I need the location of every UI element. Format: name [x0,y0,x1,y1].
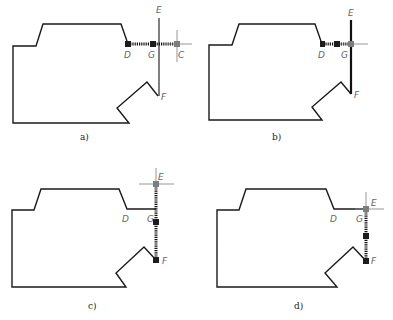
label-g: G [147,214,154,224]
label-e: E [156,5,162,15]
grip-d[interactable] [125,41,131,47]
figure-canvas: E D G C F a) E D G F b) [0,0,393,320]
grip-g[interactable] [348,41,354,47]
grip-g[interactable] [363,206,369,212]
label-e: E [158,172,164,182]
label-d: D [318,50,325,60]
label-c: C [178,50,185,60]
panel-b: E D G F b) [209,8,368,142]
label-d: D [330,214,337,224]
label-f: F [371,256,377,266]
grip-mid[interactable] [363,233,369,239]
label-f: F [354,90,360,100]
part-outline [13,24,158,123]
grip-d[interactable] [320,41,325,47]
label-d: D [124,50,131,60]
part-outline [12,189,156,287]
label-g: G [356,214,363,224]
part-outline [217,189,366,287]
panel-a: E D G C F a) [13,5,192,142]
grip-c[interactable] [174,41,180,47]
grip-g[interactable] [150,41,156,47]
grip-f[interactable] [153,257,159,263]
caption-c: c) [88,301,97,311]
label-f: F [161,92,167,102]
panel-d: E D G F d) [217,189,384,311]
caption-b: b) [272,132,281,142]
caption-d: d) [294,301,303,311]
part-outline [209,24,351,120]
panel-c: E D G F c) [12,168,174,311]
grip-mid[interactable] [334,41,340,47]
label-g: G [148,50,155,60]
grip-f[interactable] [363,258,369,264]
caption-a: a) [80,132,89,142]
label-g: G [341,50,348,60]
label-f: F [162,256,168,266]
label-d: D [122,214,129,224]
label-e: E [348,8,354,18]
label-e: E [371,198,377,208]
